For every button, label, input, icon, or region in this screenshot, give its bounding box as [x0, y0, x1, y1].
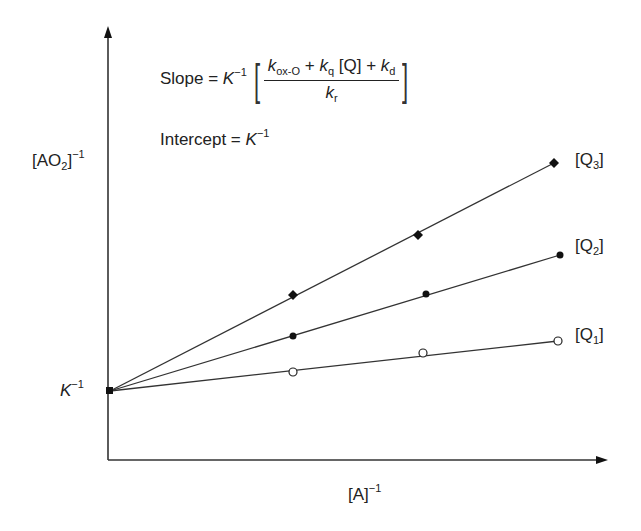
y-intercept-label: K−1: [60, 378, 84, 401]
series-lines: [110, 163, 560, 391]
y-label-main: [AO: [32, 151, 61, 170]
intercept-marker: [106, 387, 113, 394]
intercept-annotation: Intercept = K−1: [160, 127, 269, 150]
q3-point-3: [549, 158, 559, 168]
slope-right-bracket: ]: [403, 58, 409, 102]
slope-annotation: Slope = K−1 [ kox-O + kq [Q] + kd kr ]: [160, 56, 412, 104]
q1-label-main: [Q: [575, 325, 593, 344]
y-axis-arrow-icon: [104, 26, 112, 38]
slope-fraction: kox-O + kq [Q] + kd kr: [264, 56, 400, 104]
k-r-sub: r: [334, 92, 338, 104]
k-r: k: [326, 83, 335, 102]
k-ox: k: [268, 56, 277, 75]
slope-K: K: [223, 69, 234, 88]
plus-1: +: [300, 56, 319, 75]
k-ox-sub: ox-O: [276, 65, 300, 77]
q1-point-3: [554, 337, 562, 345]
x-axis-arrow-icon: [596, 456, 608, 464]
k-q: k: [319, 56, 328, 75]
y-axis-label: [AO2]−1: [32, 148, 85, 172]
line-q1: [110, 341, 558, 391]
y-label-exp: −1: [72, 148, 85, 160]
y-intercept-K: K: [60, 381, 71, 400]
k-d-sub: d: [389, 65, 395, 77]
x-label-exp: −1: [369, 482, 382, 494]
intercept-K-exp: −1: [257, 127, 270, 139]
q2-point-2: [423, 291, 430, 298]
x-label-main: [A]: [348, 485, 369, 504]
q2-label-main: [Q: [575, 236, 593, 255]
q-concentration: [Q]: [334, 56, 361, 75]
q1-point-2: [419, 349, 427, 357]
slope-K-exp: −1: [234, 66, 247, 78]
q1-label-close: ]: [599, 325, 604, 344]
q3-label-close: ]: [599, 150, 604, 169]
x-axis-label: [A]−1: [348, 482, 381, 505]
slope-denominator: kr: [264, 81, 400, 104]
q2-label-close: ]: [599, 236, 604, 255]
intercept-prefix: Intercept =: [160, 130, 246, 149]
legend-q3: [Q3]: [575, 150, 604, 171]
legend-q2: [Q2]: [575, 236, 604, 257]
slope-left-bracket: [: [255, 58, 261, 102]
q2-point-3: [557, 252, 564, 259]
q3-label-main: [Q: [575, 150, 593, 169]
slope-numerator: kox-O + kq [Q] + kd: [264, 56, 400, 81]
q1-point-1: [289, 368, 297, 376]
y-intercept-exp: −1: [71, 378, 84, 390]
legend-q1: [Q1]: [575, 325, 604, 346]
q2-point-1: [290, 333, 297, 340]
intercept-K: K: [246, 130, 257, 149]
slope-prefix: Slope =: [160, 69, 223, 88]
plus-2: +: [361, 56, 380, 75]
